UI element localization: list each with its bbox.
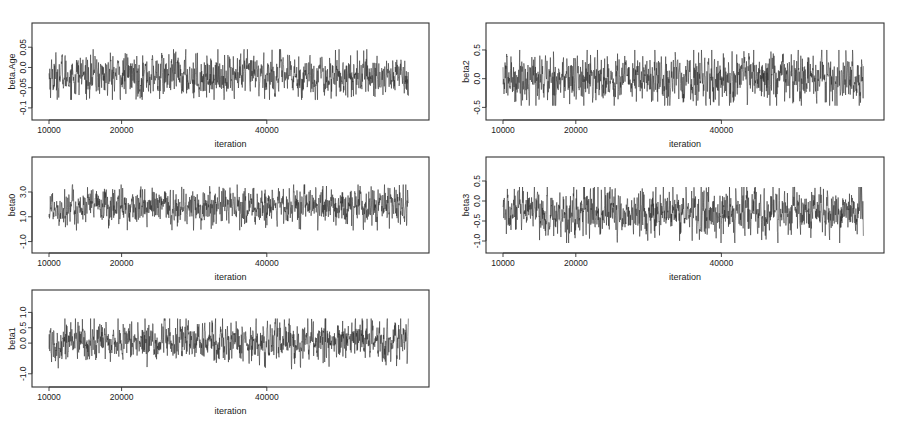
y-axis-title: beta1: [7, 327, 17, 350]
y-tick-label: -0.05: [18, 78, 28, 98]
y-tick-label: -0.1: [18, 100, 28, 115]
x-tick-label: 20000: [110, 125, 134, 135]
y-tick-label: 0.05: [18, 39, 28, 56]
x-axis-title: iteration: [214, 406, 246, 416]
mcmc-trace-line: [49, 185, 408, 231]
y-tick-label: 0.0: [18, 61, 28, 73]
y-tick-label: -1.0: [18, 366, 28, 381]
trace-panel-beta2: 100002000040000-0.50.00.5beta2iteration: [449, 0, 898, 143]
trace-panel-beta-age: 100002000040000-0.1-0.050.00.05beta.Agei…: [0, 0, 449, 143]
y-tick-label: -0.5: [472, 213, 482, 228]
y-tick-label: -1.0: [18, 234, 28, 249]
y-axis-title: beta0: [7, 194, 17, 217]
trace-panel-beta0: 100002000040000-1.01.03.0beta0iteration: [0, 135, 449, 278]
x-tick-label: 10000: [37, 125, 61, 135]
y-tick-label: 0.0: [18, 337, 28, 349]
y-tick-label: -1.0: [472, 233, 482, 248]
x-tick-label: 20000: [564, 258, 588, 268]
y-axis-title: beta.Age: [7, 53, 17, 89]
x-tick-label: 40000: [255, 258, 279, 268]
trace-panel-beta3: 100002000040000-1.0-0.50.00.5beta3iterat…: [449, 135, 898, 278]
x-tick-label: 20000: [564, 125, 588, 135]
trace-plot-beta2: 100002000040000-0.50.00.5beta2iteration: [449, 0, 898, 143]
plot-frame: [486, 23, 884, 120]
y-tick-label: 0.5: [18, 322, 28, 334]
x-tick-label: 10000: [37, 258, 61, 268]
y-tick-label: 1.0: [18, 306, 28, 318]
y-tick-label: 1.0: [18, 211, 28, 223]
plot-frame: [486, 157, 884, 253]
trace-plot-beta1: 100002000040000-1.00.00.51.0beta1iterati…: [0, 280, 449, 430]
trace-plot-beta0: 100002000040000-1.01.03.0beta0iteration: [0, 135, 449, 278]
trace-panel-beta1: 100002000040000-1.00.00.51.0beta1iterati…: [0, 280, 449, 430]
y-axis-title: beta3: [461, 194, 471, 217]
x-tick-label: 20000: [110, 258, 134, 268]
mcmc-trace-line: [49, 319, 408, 370]
y-tick-label: 0.5: [472, 175, 482, 187]
y-tick-label: 0.0: [472, 195, 482, 207]
x-tick-label: 10000: [37, 392, 61, 402]
trace-plot-beta-age: 100002000040000-0.1-0.050.00.05beta.Agei…: [0, 0, 449, 143]
mcmc-trace-line: [503, 187, 863, 243]
x-axis-title: iteration: [669, 272, 701, 282]
x-tick-label: 40000: [255, 392, 279, 402]
x-tick-label: 10000: [491, 125, 515, 135]
y-axis-title: beta2: [461, 60, 471, 83]
mcmc-trace-line: [503, 50, 863, 106]
x-tick-label: 40000: [710, 258, 734, 268]
x-tick-label: 10000: [491, 258, 515, 268]
trace-plot-beta3: 100002000040000-1.0-0.50.00.5beta3iterat…: [449, 135, 898, 278]
x-tick-label: 20000: [110, 392, 134, 402]
mcmc-trace-line: [49, 49, 408, 100]
y-tick-label: -0.5: [472, 100, 482, 115]
y-tick-label: 0.5: [472, 44, 482, 56]
y-tick-label: 3.0: [18, 186, 28, 198]
y-tick-label: 0.0: [472, 73, 482, 85]
x-tick-label: 40000: [710, 125, 734, 135]
x-tick-label: 40000: [255, 125, 279, 135]
